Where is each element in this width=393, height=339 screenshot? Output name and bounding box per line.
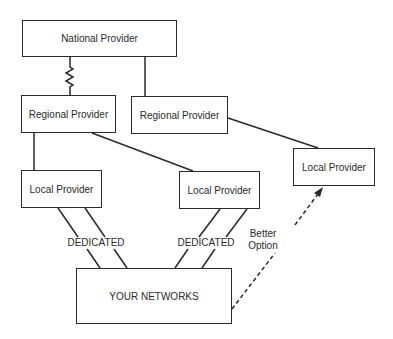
better-option-line2: Option	[248, 240, 277, 252]
node-label: Local Provider	[188, 185, 252, 196]
node-your-networks: YOUR NETWORKS	[76, 268, 232, 324]
node-label: Local Provider	[302, 162, 366, 173]
arrowhead-icon	[314, 187, 323, 197]
node-local-provider-3: Local Provider	[293, 148, 375, 186]
node-regional-provider-2: Regional Provider	[131, 96, 228, 134]
edge-regional1-local2	[92, 133, 193, 171]
node-national-provider: National Provider	[22, 20, 177, 57]
node-local-provider-1: Local Provider	[21, 170, 102, 208]
node-regional-provider-1: Regional Provider	[21, 95, 116, 133]
node-local-provider-2: Local Provider	[179, 171, 260, 209]
better-option-label: Better Option	[248, 228, 277, 252]
dedicated-label-right: DEDICATED	[177, 237, 234, 249]
node-label: National Provider	[61, 33, 138, 44]
dedicated-label-left: DEDICATED	[67, 237, 124, 249]
node-label: Regional Provider	[140, 110, 220, 121]
edge-regional2-local3	[228, 118, 318, 148]
node-label: Local Provider	[30, 184, 94, 195]
node-label: YOUR NETWORKS	[109, 291, 198, 302]
better-option-line1: Better	[248, 228, 277, 240]
edge-national-regional1-zigzag	[66, 57, 73, 95]
node-label: Regional Provider	[29, 109, 109, 120]
